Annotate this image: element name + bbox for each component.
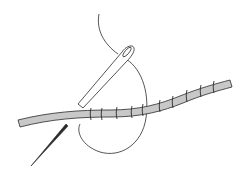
needle xyxy=(78,46,134,108)
stitching-illustration xyxy=(0,0,246,181)
thread-top xyxy=(98,14,118,54)
rod xyxy=(18,80,232,127)
illustration xyxy=(0,0,246,181)
needle-point xyxy=(31,124,68,166)
